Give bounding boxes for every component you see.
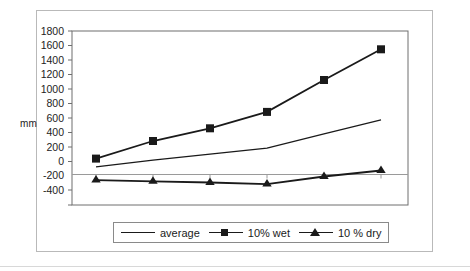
square-marker-key-icon	[209, 227, 243, 239]
triangle-marker-key-icon	[299, 227, 333, 239]
legend-label: 10 % dry	[338, 227, 381, 239]
legend-item-10-percent-wet: 10% wet	[209, 227, 290, 239]
legend-label: 10% wet	[248, 227, 290, 239]
legend-label: average	[160, 227, 200, 239]
chart-legend: average 10% wet 10 % dry	[113, 222, 389, 243]
legend-item-average: average	[121, 227, 200, 239]
y-axis-ticks	[68, 31, 72, 205]
line-key-icon	[121, 227, 155, 239]
chart-figure: mm 1800 1600 1400 1200 1000 800 600 400 …	[0, 0, 470, 271]
plot-border	[72, 31, 408, 205]
legend-item-10-percent-dry: 10 % dry	[299, 227, 381, 239]
